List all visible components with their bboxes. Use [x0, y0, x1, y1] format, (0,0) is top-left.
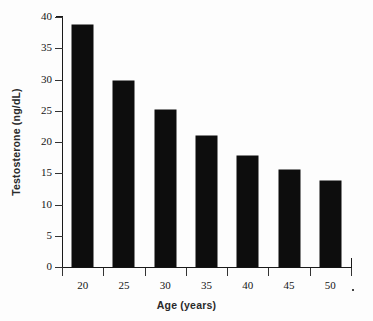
bar-age-35 [196, 136, 217, 267]
testosterone-by-age-bar-chart: 0510152025303540 20253035404550 Testoste… [0, 0, 373, 321]
x-tick-label-20: 20 [68, 280, 98, 291]
y-tick-label-10: 10 [30, 199, 52, 210]
x-tick-label-50: 50 [315, 280, 345, 291]
bar-age-25 [113, 81, 134, 267]
x-tick-4 [227, 268, 228, 276]
y-tick-label-35: 35 [30, 42, 52, 53]
x-tick-label-40: 40 [233, 280, 263, 291]
x-tick-label-25: 25 [109, 280, 139, 291]
y-tick-label-0: 0 [30, 261, 52, 272]
x-axis-line [62, 267, 352, 268]
x-tick-6 [310, 268, 311, 276]
x-tick-2 [145, 268, 146, 276]
x-tick-label-30: 30 [150, 280, 180, 291]
x-tick-3 [186, 268, 187, 276]
bar-age-50 [320, 181, 341, 267]
plot-area [62, 17, 351, 267]
y-tick-label-25: 25 [30, 105, 52, 116]
bar-age-45 [279, 170, 300, 268]
bar-age-20 [72, 25, 93, 267]
x-tick-7 [351, 268, 352, 276]
x-tick-1 [103, 268, 104, 276]
x-tick-label-45: 45 [274, 280, 304, 291]
y-tick-label-15: 15 [30, 167, 52, 178]
y-tick-label-40: 40 [30, 11, 52, 22]
y-tick-label-5: 5 [30, 230, 52, 241]
x-tick-0 [62, 268, 63, 276]
y-axis-title: Testosterone (ng/dL) [10, 42, 22, 242]
x-tick-label-35: 35 [192, 280, 222, 291]
bar-age-30 [155, 110, 176, 268]
y-tick-label-20: 20 [30, 136, 52, 147]
x-axis-trailing-mark [352, 289, 354, 291]
y-tick-label-30: 30 [30, 74, 52, 85]
x-axis-end-cap [351, 258, 352, 268]
x-tick-5 [268, 268, 269, 276]
bar-age-40 [237, 156, 258, 267]
x-axis-title: Age (years) [0, 299, 373, 311]
